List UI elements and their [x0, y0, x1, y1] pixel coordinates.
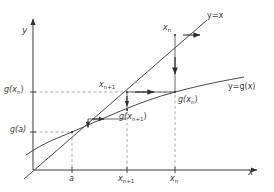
xn-plus-1-x-axis-label: xn+1	[118, 175, 134, 183]
guide-lines-group	[34, 92, 175, 170]
figure-canvas: y x y=x y=g(x) g(xn) g(a) a xn+1 xn xn x…	[0, 0, 274, 192]
g-xn-y-axis-label: g(xn)	[4, 86, 24, 94]
g-xn-plus-1-point-label: g(xn+1)	[119, 113, 147, 121]
xn-x-axis-label: xn	[170, 175, 178, 183]
a-x-axis-label: a	[69, 175, 74, 183]
cobweb-diagram-svg	[0, 0, 274, 192]
tick-marks-group	[30, 92, 175, 173]
dot-g-xn-plus-1	[126, 109, 128, 111]
xn-plus-1-point-label: xn+1	[99, 81, 115, 89]
dot-fixed-point-a	[71, 131, 73, 133]
y-axis-label: y	[22, 26, 27, 35]
identity-line-label: y=x	[207, 12, 223, 20]
dot-xn-identity	[174, 34, 176, 36]
g-curve-label: y=g(x)	[228, 83, 256, 91]
axes-group	[33, 19, 257, 170]
dot-g-xn	[174, 91, 176, 93]
xn-point-label: xn	[163, 24, 171, 32]
g-a-y-axis-label: g(a)	[10, 126, 26, 134]
x-axis-label: x	[248, 168, 253, 177]
g-xn-point-label: g(xn)	[178, 96, 198, 104]
dot-xn-plus-1-identity	[126, 91, 128, 93]
